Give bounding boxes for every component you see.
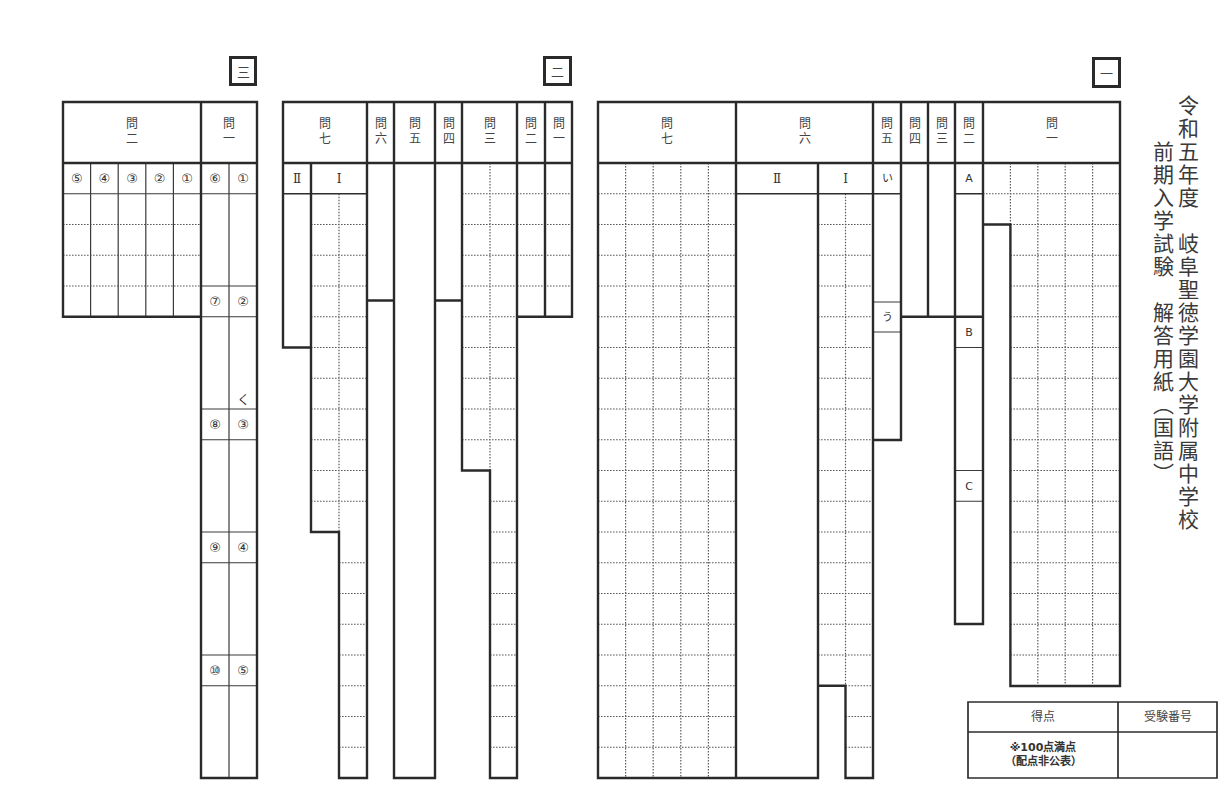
s1-q6-2-answer-box [736, 194, 818, 778]
question-number: 四 [443, 132, 455, 147]
score-note-full-marks: ※100点満点 [1010, 741, 1077, 755]
s1-question-7-header: 問 七 [598, 102, 736, 163]
s1-question-2-header: 問 二 [955, 102, 983, 163]
score-label: 得点 [968, 702, 1118, 732]
s1-q5-i-answer-box [873, 194, 901, 302]
s3-q1-item-6-label: ⑥ [201, 163, 229, 194]
s3-q1-item-10-answer-box [201, 686, 229, 778]
question-number: 二 [525, 132, 537, 147]
s3-question-2-header: 問 二 [63, 102, 201, 163]
question-number: 二 [963, 132, 975, 147]
s3-q2-item-5-label: ⑤ [63, 163, 91, 194]
s3-q1-item-9-answer-box [201, 563, 229, 655]
question-label: 問 [936, 117, 948, 132]
s3-q1-item-10-label: ⑩ [201, 655, 229, 686]
s2-question-7-header: 問 七 [283, 102, 367, 163]
s1-question-5-header: 問 五 [873, 102, 901, 163]
question-number: 五 [881, 132, 893, 147]
s3-q1-item-3-answer-box [229, 440, 257, 532]
score-note: ※100点満点 （配点非公表） [968, 732, 1118, 778]
section-number-3: 三 [229, 56, 257, 86]
s1-q2-part-c-label: C [955, 471, 983, 502]
s1-q1-answer-grid [983, 163, 1120, 686]
s3-q2-item-2-label: ② [146, 163, 174, 194]
question-number: 七 [319, 132, 331, 147]
s2-question-1-header: 問 一 [545, 102, 572, 163]
s3-q1-item-7-answer-box [201, 317, 229, 409]
question-label: 問 [881, 117, 893, 132]
question-label: 問 [661, 117, 673, 132]
s2-q6-answer-box [367, 163, 394, 301]
question-number: 一 [223, 132, 235, 147]
s3-q1-item-6-answer-box [201, 194, 229, 286]
s3-question-1-header: 問 一 [201, 102, 257, 163]
title-school-line: 令和五年度 岐阜聖徳学園大学附属中学校 [1176, 95, 1197, 532]
s1-q6-part-2-label: Ⅱ [736, 163, 818, 194]
question-number: 六 [375, 132, 387, 147]
s2-q2-answer-grid [517, 163, 545, 317]
s3-q2-answer-grid [63, 194, 201, 317]
s2-q7-part-2-label: Ⅱ [283, 163, 311, 194]
s1-q2-part-b-label: B [955, 317, 983, 348]
s1-q5-u-answer-box [873, 332, 901, 440]
exam-number-label: 受験番号 [1118, 702, 1217, 732]
s3-q1-item-1-answer-box [229, 194, 257, 286]
s3-q1-item-4-answer-box [229, 563, 257, 655]
s2-question-5-header: 問 五 [394, 102, 435, 163]
question-label: 問 [484, 117, 496, 132]
question-number: 七 [661, 132, 673, 147]
question-number: 二 [126, 132, 138, 147]
question-label: 問 [1046, 117, 1058, 132]
s2-q4-answer-box [435, 163, 462, 301]
question-number: 一 [1046, 132, 1058, 147]
s1-question-1-header: 問 一 [983, 102, 1120, 163]
s2-q5-answer-box [394, 163, 435, 778]
question-number: 四 [909, 132, 921, 147]
s3-q2-item-1-label: ① [173, 163, 201, 194]
question-label: 問 [319, 117, 331, 132]
question-number: 六 [799, 132, 811, 147]
question-label: 問 [126, 117, 138, 132]
question-label: 問 [375, 117, 387, 132]
question-label: 問 [525, 117, 537, 132]
s1-q7-answer-grid [598, 163, 736, 778]
question-label: 問 [223, 117, 235, 132]
s1-q5-part-u-label: う [873, 302, 901, 332]
s2-q7-1-answer-grid [311, 194, 367, 778]
s3-q1-item-3-label: ③ [229, 409, 257, 440]
question-label: 問 [443, 117, 455, 132]
question-number: 五 [409, 132, 421, 147]
s2-question-4-header: 問 四 [435, 102, 462, 163]
s2-q1-answer-grid [545, 163, 572, 317]
question-label: 問 [799, 117, 811, 132]
s1-q4-answer-box [901, 163, 928, 317]
s3-q1-item-7-label: ⑦ [201, 286, 229, 317]
question-label: 問 [963, 117, 975, 132]
s3-q1-item-1-label: ① [229, 163, 257, 194]
s1-q2-a-answer-box [955, 194, 983, 317]
question-label: 問 [909, 117, 921, 132]
s3-q2-item-4-label: ④ [91, 163, 119, 194]
s3-q1-item-8-label: ⑧ [201, 409, 229, 440]
s1-q5-part-i-label: い [873, 163, 901, 194]
s1-q2-c-answer-box [955, 502, 983, 624]
exam-number-field [1118, 732, 1217, 778]
s3-q1-item-5-answer-box [229, 686, 257, 778]
s1-q2-b-answer-box [955, 348, 983, 471]
answer-sheet: 令和五年度 岐阜聖徳学園大学附属中学校 前期入学試験 解答用紙（国語） 一 二 … [0, 0, 1232, 811]
s1-question-4-header: 問 四 [901, 102, 928, 163]
s1-q6-1-answer-grid [818, 194, 873, 778]
s3-q1-item-2-answer-box [229, 317, 257, 409]
s1-question-3-header: 問 三 [928, 102, 955, 163]
s2-question-3-header: 問 三 [462, 102, 517, 163]
s1-q6-part-1-label: Ⅰ [818, 163, 873, 194]
s3-q1-item-4-label: ④ [229, 532, 257, 563]
question-number: 一 [553, 132, 565, 147]
title-exam-line: 前期入学試験 解答用紙（国語） [1151, 141, 1172, 486]
question-number: 三 [484, 132, 496, 147]
s3-q1-item-9-label: ⑨ [201, 532, 229, 563]
s1-q3-answer-box [928, 163, 955, 317]
score-note-undisclosed: （配点非公表） [1005, 755, 1082, 769]
s1-q2-part-a-label: A [955, 163, 983, 194]
s2-question-6-header: 問 六 [367, 102, 394, 163]
